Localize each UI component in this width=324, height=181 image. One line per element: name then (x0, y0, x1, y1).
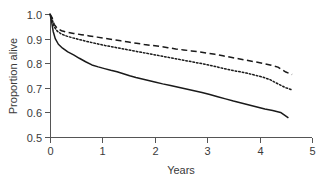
chart-canvas: 0.50.60.70.80.91.0 Proportion alive 0123… (0, 0, 324, 181)
y-axis-tick-labels: 0.50.60.70.80.91.0 (27, 9, 42, 144)
curve-lower-curve (50, 14, 288, 118)
x-tick-label: 2 (152, 145, 158, 157)
x-tick-label: 3 (204, 145, 210, 157)
x-axis-tick-labels: 012345 (47, 145, 315, 157)
x-axis-ticks (51, 138, 313, 144)
y-tick-label: 0.5 (27, 132, 42, 144)
x-axis-title: Years (167, 164, 195, 176)
y-tick-label: 0.9 (27, 34, 42, 46)
x-tick-label: 5 (309, 145, 315, 157)
x-tick-label: 1 (99, 145, 105, 157)
y-axis-title: Proportion alive (7, 38, 19, 114)
survival-chart-figure: 0.50.60.70.80.91.0 Proportion alive 0123… (0, 0, 324, 181)
curve-upper-curve (50, 14, 292, 75)
curve-series-group (50, 14, 292, 118)
x-tick-label: 0 (47, 145, 53, 157)
y-tick-label: 0.8 (27, 58, 42, 70)
y-tick-label: 1.0 (27, 9, 42, 21)
curve-middle-curve (50, 14, 292, 90)
x-axis-group: 012345 Years (47, 138, 315, 177)
y-tick-label: 0.6 (27, 107, 42, 119)
y-tick-label: 0.7 (27, 83, 42, 95)
y-axis-ticks (45, 15, 51, 138)
y-axis-group: 0.50.60.70.80.91.0 Proportion alive (7, 9, 51, 144)
x-tick-label: 4 (257, 145, 263, 157)
